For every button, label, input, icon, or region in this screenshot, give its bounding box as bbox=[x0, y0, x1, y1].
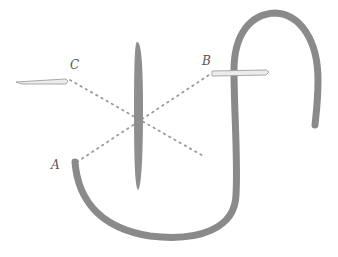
diagram-canvas bbox=[0, 0, 338, 257]
needle-c bbox=[16, 79, 68, 84]
needle-b bbox=[212, 70, 269, 76]
s-curve-tube bbox=[75, 13, 318, 237]
central-bar bbox=[134, 42, 143, 190]
label-c: C bbox=[70, 58, 79, 72]
label-a: A bbox=[51, 158, 60, 172]
label-b: B bbox=[202, 54, 211, 68]
